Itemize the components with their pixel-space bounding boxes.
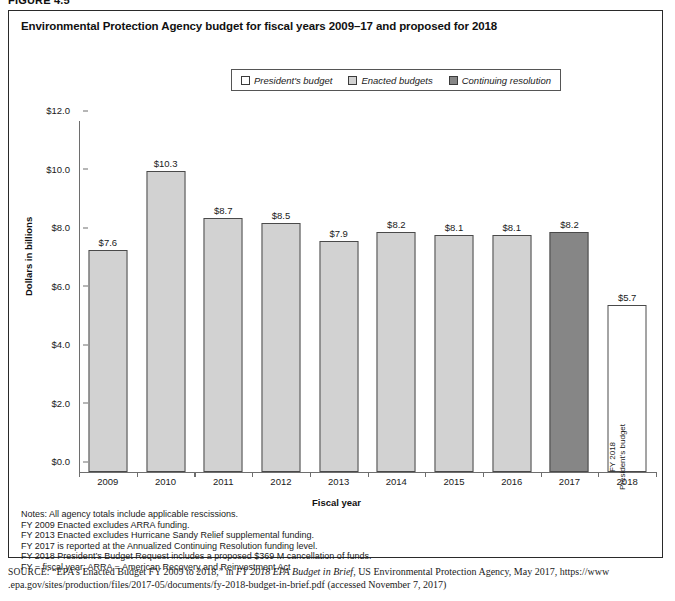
y-axis-tick-mark	[83, 110, 88, 111]
bar-2014[interactable]: $8.2	[377, 232, 416, 472]
x-axis-tick-mark	[194, 472, 195, 477]
bar-2010[interactable]: $10.3	[146, 171, 185, 472]
note-line-3: FY 2017 is reported at the Annualized Co…	[21, 541, 371, 552]
bar-value-label: $8.1	[445, 222, 464, 233]
note-line-1: FY 2009 Enacted excludes ARRA funding.	[21, 520, 371, 531]
note-line-4: FY 2018 President’s Budget Request inclu…	[21, 551, 371, 562]
bar-value-label: $8.2	[387, 219, 406, 230]
x-axis-title: Fiscal year	[9, 497, 664, 508]
source-citation: SOURCE: “EPA’s Enacted Budget FY 2009 to…	[8, 566, 668, 591]
bar-group: $10.3	[137, 121, 195, 472]
bar-2009[interactable]: $7.6	[88, 250, 127, 472]
bar-value-label: $8.1	[502, 222, 521, 233]
y-axis-tick-label: $2.0	[52, 397, 80, 408]
y-axis-tick-label: $4.0	[52, 339, 80, 350]
bar-group: $8.5	[252, 121, 310, 472]
x-axis-tick-label: 2013	[328, 476, 349, 487]
source-in-word: in	[226, 566, 234, 577]
bar-value-label: $7.6	[99, 237, 118, 248]
x-axis-tick-label: 2018	[617, 476, 638, 487]
bar-2012[interactable]: $8.5	[261, 223, 300, 472]
bar-value-label: $7.9	[329, 228, 348, 239]
plot-area: $0.0$2.0$4.0$6.0$8.0$10.0$12.0$7.6$10.3$…	[79, 121, 656, 472]
bar-value-label: $10.3	[154, 158, 178, 169]
x-axis-tick-mark	[425, 472, 426, 477]
bar-2016[interactable]: $8.1	[492, 235, 531, 472]
source-label: SOURCE:	[8, 567, 50, 577]
bar-group: $8.7	[194, 121, 252, 472]
x-axis-tick-mark	[483, 472, 484, 477]
bar-group: $5.7FY 2018President's budget	[598, 121, 656, 472]
y-axis-tick-label: $12.0	[46, 105, 79, 116]
x-axis-tick-label: 2014	[386, 476, 407, 487]
bar-2013[interactable]: $7.9	[319, 241, 358, 472]
source-url: .epa.gov/sites/production/files/2017-05/…	[8, 579, 446, 590]
x-axis-tick-mark	[252, 472, 253, 477]
bar-group: $7.9	[310, 121, 368, 472]
x-axis-tick-mark	[598, 472, 599, 477]
x-axis-tick-mark	[79, 472, 80, 477]
x-axis-tick-label: 2009	[97, 476, 118, 487]
y-axis-tick-label: $6.0	[52, 280, 80, 291]
chart-notes: Notes: All agency totals include applica…	[21, 509, 371, 573]
bar-group: $8.1	[483, 121, 541, 472]
bar-2017[interactable]: $8.2	[550, 232, 589, 472]
x-axis-tick-label: 2015	[443, 476, 464, 487]
note-line-0: Notes: All agency totals include applica…	[21, 509, 371, 520]
bar-group: $8.1	[425, 121, 483, 472]
source-publisher: , US Environmental Protection Agency, Ma…	[353, 566, 609, 577]
x-axis-tick-label: 2011	[213, 476, 233, 487]
y-axis-tick-label: $10.0	[46, 163, 79, 174]
x-axis-tick-mark	[310, 472, 311, 477]
bar-2015[interactable]: $8.1	[435, 235, 474, 472]
y-axis-tick-label: $8.0	[52, 222, 80, 233]
chart-plot-wrapper: Dollars in billions Fiscal year $0.0$2.0…	[9, 11, 664, 559]
x-axis-tick-label: 2016	[501, 476, 522, 487]
x-axis-tick-mark	[137, 472, 138, 477]
x-axis-tick-label: 2012	[270, 476, 291, 487]
bar-2018[interactable]: $5.7FY 2018President's budget	[608, 305, 647, 472]
x-axis-tick-label: 2010	[155, 476, 176, 487]
source-quoted-title: “EPA’s Enacted Budget FY 2009 to 2018,”	[52, 566, 223, 577]
bar-value-label: $8.5	[272, 210, 291, 221]
x-axis-tick-mark	[656, 472, 657, 477]
figure-frame: Environmental Protection Agency budget f…	[8, 10, 663, 558]
bar-group: $8.2	[368, 121, 426, 472]
bar-2011[interactable]: $8.7	[204, 218, 243, 472]
source-publication: FY 2018 EPA Budget in Brief	[236, 566, 353, 577]
note-line-2: FY 2013 Enacted excludes Hurricane Sandy…	[21, 530, 371, 541]
figure-number: FIGURE 4.5	[8, 0, 70, 6]
y-axis-title: Dollars in billions	[23, 217, 34, 296]
x-axis-tick-mark	[541, 472, 542, 477]
bar-group: $7.6	[79, 121, 137, 472]
bar-value-label: $5.7	[618, 292, 637, 303]
bar-group: $8.2	[541, 121, 599, 472]
x-axis-tick-label: 2017	[559, 476, 580, 487]
bar-value-label: $8.7	[214, 205, 233, 216]
x-axis-tick-mark	[368, 472, 369, 477]
y-axis-tick-label: $0.0	[52, 456, 80, 467]
bar-value-label: $8.2	[560, 219, 579, 230]
